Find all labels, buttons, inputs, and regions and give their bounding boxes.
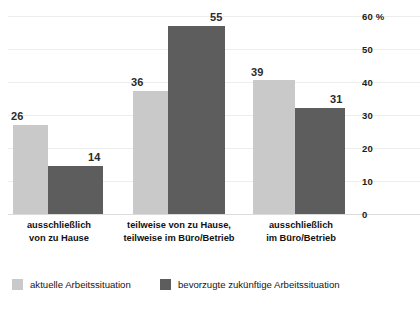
category-label-3-line1: ausschließlich: [253, 219, 349, 232]
y-tick-10: 10: [362, 176, 373, 187]
bar-chart: 60 % 50 40 30 20 10 0 26 14 36 55 39 31 …: [0, 0, 420, 316]
bar-value-group3-future: 31: [330, 93, 343, 105]
bar-group1-current[interactable]: [13, 125, 48, 214]
category-label-1: ausschließlich von zu Hause: [13, 219, 105, 244]
category-label-3: ausschließlich im Büro/Betrieb: [253, 219, 349, 244]
category-label-2-line1: teilweise von zu Hause,: [115, 219, 243, 232]
y-tick-20: 20: [362, 143, 373, 154]
category-label-1-line1: ausschließlich: [13, 219, 105, 232]
bar-group2-future[interactable]: [168, 26, 225, 215]
legend-label-future: bevorzugte zukünftige Arbeitssituation: [178, 279, 340, 290]
bar-value-group2-current: 36: [131, 76, 144, 88]
y-tick-30: 30: [362, 110, 373, 121]
category-label-2-line2: teilweise im Büro/Betrieb: [115, 232, 243, 245]
legend-swatch-future-icon: [160, 279, 171, 290]
legend-swatch-current-icon: [12, 279, 23, 290]
y-tick-0: 0: [362, 209, 367, 220]
y-tick-40: 40: [362, 77, 373, 88]
bar-value-group1-future: 14: [88, 151, 101, 163]
bar-value-group1-current: 26: [11, 110, 24, 122]
bar-group2-current[interactable]: [133, 91, 168, 214]
y-tick-60: 60 %: [362, 11, 384, 22]
y-tick-50: 50: [362, 44, 373, 55]
bar-group1-future[interactable]: [48, 166, 103, 214]
category-label-2: teilweise von zu Hause, teilweise im Bür…: [115, 219, 243, 244]
legend-item-future[interactable]: bevorzugte zukünftige Arbeitssituation: [160, 279, 340, 290]
bar-value-group3-current: 39: [251, 66, 264, 78]
bar-group3-current[interactable]: [253, 80, 295, 214]
legend-item-current[interactable]: aktuelle Arbeitssituation: [12, 279, 131, 290]
bar-group3-future[interactable]: [295, 108, 345, 214]
gridline-0: [8, 214, 420, 215]
bar-value-group2-future: 55: [210, 11, 223, 23]
category-label-1-line2: von zu Hause: [13, 232, 105, 245]
legend: aktuelle Arbeitssituation bevorzugte zuk…: [0, 279, 420, 299]
legend-label-current: aktuelle Arbeitssituation: [30, 279, 131, 290]
category-label-3-line2: im Büro/Betrieb: [253, 232, 349, 245]
